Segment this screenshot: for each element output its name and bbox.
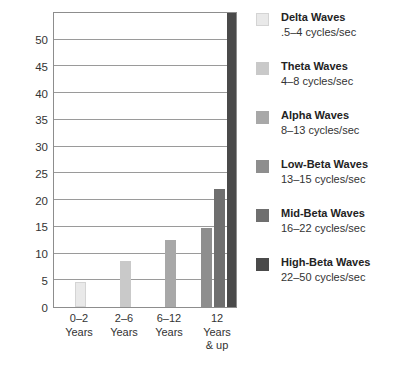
legend-title: Delta Waves <box>281 10 396 25</box>
legend-subtitle: 4–8 cycles/sec <box>281 74 396 89</box>
legend-text: Delta Waves.5–4 cycles/sec <box>281 10 396 40</box>
legend-item: Alpha Waves8–13 cycles/sec <box>256 110 396 144</box>
gridline <box>54 92 236 93</box>
y-tick-label: 30 <box>4 142 48 154</box>
gridline <box>54 65 236 66</box>
legend-swatch <box>256 209 269 222</box>
y-tick-label: 20 <box>4 196 48 208</box>
legend-title: Theta Waves <box>281 59 396 74</box>
legend-subtitle: 22–50 cycles/sec <box>281 270 396 285</box>
legend-text: Mid-Beta Waves16–22 cycles/sec <box>281 206 396 236</box>
legend-swatch <box>256 62 269 75</box>
legend-swatch <box>256 111 269 124</box>
gridline <box>54 146 236 147</box>
legend-text: Low-Beta Waves13–15 cycles/sec <box>281 157 396 187</box>
y-tick-label: 35 <box>4 115 48 127</box>
gridline <box>54 172 236 173</box>
y-tick-label: 5 <box>4 276 48 288</box>
bar <box>75 282 86 307</box>
y-tick-label: 15 <box>4 222 48 234</box>
bar <box>214 189 225 307</box>
x-axis: 0–2 Years2–6 Years6–12 Years12 Years & u… <box>53 312 237 368</box>
legend-item: Mid-Beta Waves16–22 cycles/sec <box>256 208 396 242</box>
gridline <box>54 119 236 120</box>
y-tick-label: 10 <box>4 249 48 261</box>
legend-swatch <box>256 258 269 271</box>
legend-title: Alpha Waves <box>281 108 396 123</box>
bar <box>165 240 176 307</box>
legend-text: High-Beta Waves22–50 cycles/sec <box>281 255 396 285</box>
legend-item: Low-Beta Waves13–15 cycles/sec <box>256 159 396 193</box>
y-tick-label: 40 <box>4 89 48 101</box>
legend-text: Alpha Waves8–13 cycles/sec <box>281 108 396 138</box>
legend-subtitle: 8–13 cycles/sec <box>281 123 396 138</box>
gridline <box>54 199 236 200</box>
bar <box>201 228 212 307</box>
legend-swatch <box>256 160 269 173</box>
legend-swatch <box>256 13 269 26</box>
legend: Delta Waves.5–4 cycles/secTheta Waves4–8… <box>256 12 396 312</box>
bar <box>120 261 131 308</box>
legend-text: Theta Waves4–8 cycles/sec <box>281 59 396 89</box>
y-axis: 50454035302520151050 <box>0 12 48 308</box>
brainwave-frequency-bar-chart: 50454035302520151050 0–2 Years2–6 Years6… <box>0 0 396 374</box>
legend-subtitle: .5–4 cycles/sec <box>281 25 396 40</box>
y-tick-label: 0 <box>4 303 48 315</box>
y-tick-label: 25 <box>4 169 48 181</box>
gridline <box>54 226 236 227</box>
x-tick-label: 12 Years & up <box>187 312 247 353</box>
legend-title: Low-Beta Waves <box>281 157 396 172</box>
y-tick-label: 50 <box>4 35 48 47</box>
legend-title: Mid-Beta Waves <box>281 206 396 221</box>
legend-item: Delta Waves.5–4 cycles/sec <box>256 12 396 46</box>
legend-item: Theta Waves4–8 cycles/sec <box>256 61 396 95</box>
legend-subtitle: 13–15 cycles/sec <box>281 172 396 187</box>
legend-item: High-Beta Waves22–50 cycles/sec <box>256 257 396 291</box>
gridline <box>54 39 236 40</box>
legend-subtitle: 16–22 cycles/sec <box>281 221 396 236</box>
legend-title: High-Beta Waves <box>281 255 396 270</box>
y-tick-label: 45 <box>4 62 48 74</box>
bar <box>227 13 238 307</box>
plot-area <box>53 12 237 308</box>
